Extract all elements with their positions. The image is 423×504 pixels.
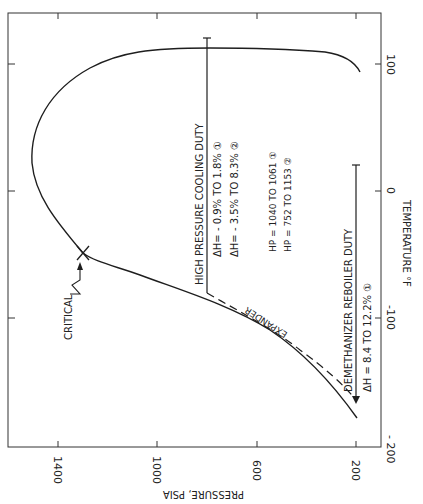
critical-point-marker <box>77 246 89 260</box>
hp-value-2: HP = 752 TO 1153 ② <box>283 157 293 252</box>
hp-cooling-duty-title: HIGH PRESSURE COOLING DUTY <box>194 123 205 285</box>
temperature-axis-ticks <box>375 64 381 318</box>
temperature-tick-neg200: - 200 <box>384 435 397 463</box>
critical-label: CRITICAL <box>63 294 74 340</box>
pressure-tick-1000: 1000 <box>150 456 163 484</box>
pressure-tick-1400: 1400 <box>51 456 64 484</box>
critical-arrowhead <box>77 262 83 270</box>
top-ticks <box>58 13 356 19</box>
temperature-tick-labels: 100 0 -100 - 200 <box>384 54 397 463</box>
demethanizer-title: DEMETHANIZER REBOILER DUTY <box>343 228 354 392</box>
expander-label-text: EXPANDER <box>243 305 289 340</box>
temperature-tick-neg100: -100 <box>384 305 397 330</box>
demethanizer-delta-h: ΔH = 8.4 TO 12.2% ① <box>362 283 373 392</box>
left-ticks <box>8 64 15 318</box>
phase-envelope-chart: 1400 1000 600 200 PRESSURE, PSIA 100 0 -… <box>0 0 423 504</box>
pressure-axis-label: PRESSURE, PSIA <box>163 489 244 500</box>
pressure-axis-ticks <box>58 441 356 447</box>
temperature-tick-0: 0 <box>384 187 397 194</box>
hp-value-1: HP = 1040 TO 1061 ① <box>268 152 278 253</box>
hp-delta-h-2: ΔH= - 3.5% TO 8.3% ② <box>229 141 240 257</box>
temperature-axis-label: TEMPERATURE °F <box>401 199 412 287</box>
pressure-tick-600: 600 <box>250 460 263 481</box>
pressure-tick-200: 200 <box>349 460 362 481</box>
temperature-tick-100: 100 <box>384 54 397 75</box>
demethanizer-arrowhead <box>352 396 360 404</box>
critical-pointer <box>70 268 80 294</box>
pressure-tick-labels: 1400 1000 600 200 <box>51 456 362 484</box>
hp-delta-h-1: ΔH= - 0.9% TO 1.8% ① <box>212 141 223 257</box>
